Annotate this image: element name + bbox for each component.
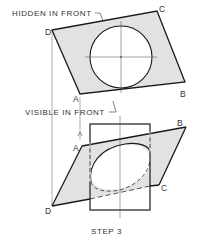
front-view: B A C D (45, 116, 186, 218)
diagram-canvas: HIDDEN IN FRONT VISIBLE IN FRONT D C B A (0, 0, 197, 246)
center-point (120, 56, 122, 58)
leader-hidden (95, 13, 103, 21)
label-hidden-in-front: HIDDEN IN FRONT (12, 9, 92, 18)
point-c-top: C (159, 4, 166, 14)
step-caption: STEP 3 (91, 227, 122, 236)
label-visible-in-front: VISIBLE IN FRONT (25, 108, 105, 117)
point-c-front: C (161, 183, 168, 193)
point-a-front: A (73, 143, 79, 153)
point-b-front: B (177, 118, 183, 128)
point-d-top: D (45, 27, 52, 37)
leader-visible (109, 101, 116, 112)
point-a-top: A (73, 94, 79, 104)
point-d-front: D (45, 206, 52, 216)
point-b-top: B (180, 89, 186, 99)
